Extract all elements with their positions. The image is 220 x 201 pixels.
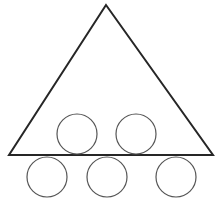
geometry-figure	[0, 0, 220, 201]
figure-canvas	[0, 0, 220, 201]
canvas-background	[0, 0, 220, 201]
